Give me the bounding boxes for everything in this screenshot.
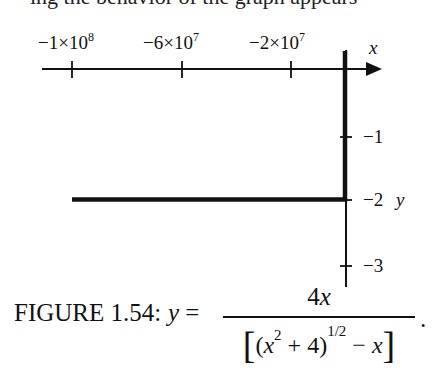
equals-sign: = <box>185 299 199 326</box>
figure-caption-label: FIGURE 1.54: <box>14 298 161 328</box>
x-axis-label: x <box>368 37 378 58</box>
function-curve <box>72 51 345 200</box>
lhs-variable: y <box>168 299 179 326</box>
numerator-variable: x <box>320 283 331 310</box>
x-tick-label-1: −1×108 <box>38 30 94 53</box>
exponent-half: 1/2 <box>327 323 346 339</box>
caption-period: . <box>420 304 426 334</box>
y-axis-label: y <box>394 189 405 210</box>
fraction-denominator: [(x2 + 4)1/2 − x] <box>223 324 415 360</box>
close-bracket: ] <box>383 324 396 366</box>
open-bracket: [ <box>243 324 256 366</box>
denominator-variable-1: x <box>263 332 274 358</box>
denominator-variable-2: x <box>372 332 383 358</box>
x-tick-label-3: −2×107 <box>249 30 305 53</box>
caption-equation-lhs: y = <box>168 298 199 328</box>
y-tick-label-1: −1 <box>363 126 383 147</box>
exponent-2: 2 <box>274 327 282 343</box>
fraction-bar <box>223 316 415 318</box>
caption-fraction: 4x [(x2 + 4)1/2 − x] <box>223 282 415 360</box>
y-tick-label-2: −2 <box>363 189 383 210</box>
numerator-coefficient: 4 <box>307 283 320 310</box>
plus-sign: + <box>288 332 302 358</box>
y-tick-label-3: −3 <box>363 255 383 276</box>
x-axis-arrowhead-icon <box>366 62 382 76</box>
denominator-constant: 4 <box>307 332 319 358</box>
close-paren: ) <box>319 332 327 358</box>
minus-sign: − <box>352 332 366 358</box>
x-tick-label-2: −6×107 <box>143 30 199 53</box>
fraction-numerator: 4x <box>223 282 415 312</box>
